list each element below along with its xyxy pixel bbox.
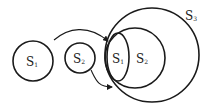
nested-sets: S1 S2 S3: [105, 8, 199, 102]
arrow-s1-to-inner: [54, 30, 108, 41]
set-s1-label: S1: [26, 55, 38, 69]
set-s2-middle-label: S2: [136, 52, 148, 66]
set-s1-inner-label: S1: [112, 52, 124, 66]
nested-sets-diagram: S1 S2 S1 S2 S3: [0, 0, 211, 109]
standalone-set-s2: S2: [65, 43, 95, 73]
set-s2-label: S2: [73, 52, 85, 66]
set-s3-outer-label: S3: [185, 9, 197, 23]
standalone-set-s1: S1: [13, 41, 53, 81]
